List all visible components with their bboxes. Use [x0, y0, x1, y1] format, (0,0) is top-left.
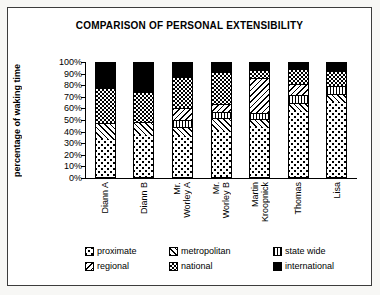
bar-segment-international	[134, 63, 153, 92]
category-label: Thomas	[279, 182, 318, 252]
y-tick-label: 10%	[38, 161, 82, 171]
bar-segment-metropolitan	[212, 118, 231, 132]
bar-segment-regional	[289, 84, 308, 95]
y-tick-label: 30%	[38, 138, 82, 148]
legend-swatch-solid-black-icon	[273, 262, 282, 271]
legend-swatch-slash-hatch-icon	[85, 262, 94, 271]
legend-label: international	[285, 261, 334, 271]
y-tick-label: 90%	[38, 69, 82, 79]
bar-segment-international	[327, 63, 346, 71]
category-label-text: Diann B	[139, 182, 149, 214]
bar-segment-metropolitan	[289, 103, 308, 111]
category-label-text: Martin Kroopnick	[250, 182, 270, 222]
chart-canvas: COMPARISON OF PERSONAL EXTENSIBILITY per…	[0, 0, 380, 295]
y-axis-label: percentage of waking time	[12, 58, 26, 182]
bar-segment-metropolitan	[96, 123, 115, 139]
y-tick-label: 60%	[38, 103, 82, 113]
bar-segment-state-wide	[327, 86, 346, 94]
bar-segment-international	[250, 63, 269, 70]
legend-label: regional	[97, 261, 129, 271]
bar-segment-regional	[212, 104, 231, 112]
y-tick-label: 20%	[38, 150, 82, 160]
y-tick-label: 40%	[38, 127, 82, 137]
bar-segment-national	[250, 70, 269, 78]
bar-mr-worley-b	[211, 62, 232, 178]
bar-segment-metropolitan	[134, 122, 153, 135]
bar-segment-proximate	[96, 139, 115, 177]
y-tick-label: 50%	[38, 115, 82, 125]
bar-lisa	[326, 62, 347, 178]
bar-segment-metropolitan	[173, 127, 192, 136]
category-label: Martin Kroopnick	[240, 182, 279, 252]
bar-segment-international	[212, 63, 231, 72]
y-tick-label: 80%	[38, 80, 82, 90]
category-label-text: Diann A	[100, 182, 110, 214]
y-tick-mark	[81, 178, 86, 179]
legend-item-national: national	[169, 261, 213, 271]
bar-segment-international	[173, 63, 192, 77]
category-label: Mr. Worley A	[163, 182, 202, 252]
bar-segment-proximate	[327, 102, 346, 177]
bar-segment-state-wide	[289, 95, 308, 103]
category-label: Diann A	[86, 182, 125, 252]
bar-diann-b	[133, 62, 154, 178]
bar-segment-international	[96, 63, 115, 88]
legend-label: metropolitan	[181, 246, 231, 256]
bar-diann-a	[95, 62, 116, 178]
bar-thomas	[288, 62, 309, 178]
bar-segment-proximate	[212, 131, 231, 177]
bar-segment-national	[173, 77, 192, 108]
legend: proximatemetropolitanstate wideregionaln…	[85, 246, 370, 278]
legend-item-state-wide: state wide	[273, 246, 326, 256]
chart-title: COMPARISON OF PERSONAL EXTENSIBILITY	[7, 20, 372, 31]
plot-area	[86, 62, 356, 178]
bar-segment-state-wide	[173, 120, 192, 127]
bar-martin-kroopnick	[249, 62, 270, 178]
y-tick-label: 100%	[38, 57, 82, 67]
bar-segment-metropolitan	[250, 119, 269, 127]
bar-segment-national	[289, 69, 308, 84]
legend-item-regional: regional	[85, 261, 129, 271]
x-axis-line	[85, 178, 357, 179]
category-label-text: Mr. Worley B	[211, 182, 231, 218]
bar-segment-national	[212, 72, 231, 104]
category-label-text: Mr. Worley A	[172, 182, 192, 218]
bar-segment-national	[134, 92, 153, 123]
bar-segment-proximate	[289, 111, 308, 177]
category-label: Lisa	[317, 182, 356, 252]
category-labels: Diann ADiann BMr. Worley AMr. Worley BMa…	[86, 182, 356, 252]
legend-swatch-backslash-hatch-icon	[169, 247, 178, 256]
bar-segment-proximate	[173, 136, 192, 177]
bar-segment-proximate	[134, 135, 153, 177]
category-label: Diann B	[125, 182, 164, 252]
y-tick-label: 0%	[38, 173, 82, 183]
legend-swatch-vertical-lines-icon	[273, 247, 282, 256]
legend-swatch-dots-icon	[85, 247, 94, 256]
bar-segment-proximate	[250, 127, 269, 177]
category-label-text: Lisa	[332, 182, 342, 199]
legend-item-international: international	[273, 261, 334, 271]
bar-mr-worley-a	[172, 62, 193, 178]
legend-item-metropolitan: metropolitan	[169, 246, 231, 256]
category-label-text: Thomas	[293, 182, 303, 215]
bar-segment-regional	[173, 108, 192, 121]
legend-label: national	[181, 261, 213, 271]
category-label: Mr. Worley B	[202, 182, 241, 252]
legend-swatch-checker-icon	[169, 262, 178, 271]
legend-item-proximate: proximate	[85, 246, 137, 256]
bar-segment-national	[96, 88, 115, 123]
bar-segment-regional	[250, 78, 269, 113]
bar-segment-national	[327, 71, 346, 86]
bar-segment-metropolitan	[327, 94, 346, 102]
legend-label: state wide	[285, 246, 326, 256]
legend-label: proximate	[97, 246, 137, 256]
y-tick-label: 70%	[38, 92, 82, 102]
